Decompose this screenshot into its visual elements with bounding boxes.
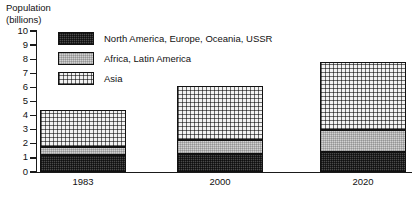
- y-axis-line: [36, 30, 37, 173]
- bar-segment: [40, 147, 126, 155]
- bar-segment: [177, 86, 263, 140]
- bar-segment: [320, 62, 406, 130]
- bar-segment: [177, 140, 263, 154]
- y-axis-tick-label: 8: [6, 54, 28, 64]
- y-axis-tick-label: 9: [6, 40, 28, 50]
- y-axis-tick-label: 6: [6, 82, 28, 92]
- legend-label: Africa, Latin America: [104, 52, 191, 65]
- y-axis-tick-label: 5: [6, 96, 28, 106]
- y-axis-tick: [30, 143, 36, 144]
- y-axis-tick: [30, 44, 36, 45]
- y-axis-tick: [30, 129, 36, 130]
- y-axis-tick: [30, 115, 36, 116]
- x-axis-label-1983: 1983: [40, 176, 126, 187]
- legend-swatch-gray-icon: [58, 52, 94, 65]
- legend-label: North America, Europe, Oceania, USSR: [104, 32, 272, 45]
- y-axis-tick: [30, 87, 36, 88]
- legend-swatch-dotted-icon: [58, 72, 94, 85]
- y-axis-tick-label: 4: [6, 110, 28, 120]
- y-axis-tick: [30, 171, 36, 172]
- y-axis-tick-label: 3: [6, 124, 28, 134]
- x-axis-label-2000: 2000: [177, 176, 263, 187]
- y-axis-tick-label: 2: [6, 138, 28, 148]
- population-stacked-bar-chart: Population (billions) 012345678910 19832…: [0, 0, 416, 198]
- y-axis-tick-label: 10: [6, 26, 28, 36]
- legend-swatch-dark-icon: [58, 32, 94, 45]
- y-axis-title: Population (billions): [6, 2, 51, 25]
- bar-2020: [320, 31, 406, 172]
- y-axis-tick-label: 7: [6, 68, 28, 78]
- y-axis-tick: [30, 157, 36, 158]
- y-axis-tick-label: 0: [6, 167, 28, 177]
- y-axis-title-line-2: (billions): [6, 14, 51, 26]
- bar-segment: [320, 152, 406, 172]
- y-axis-tick: [30, 30, 36, 31]
- bar-segment: [40, 110, 126, 147]
- y-axis-title-line-1: Population: [6, 2, 51, 14]
- bar-segment: [320, 130, 406, 153]
- bar-segment: [40, 155, 126, 172]
- y-axis-tick: [30, 59, 36, 60]
- bar-segment: [177, 154, 263, 172]
- y-axis-tick-label: 1: [6, 152, 28, 162]
- x-axis-label-2020: 2020: [320, 176, 406, 187]
- y-axis-tick: [30, 101, 36, 102]
- legend-label: Asia: [104, 72, 122, 85]
- y-axis-tick: [30, 73, 36, 74]
